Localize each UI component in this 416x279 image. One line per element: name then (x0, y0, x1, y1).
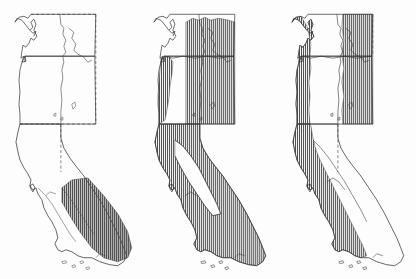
study-area-box (20, 14, 96, 172)
shaded-distribution-area (55, 172, 135, 268)
channel-islands (201, 261, 229, 270)
map-panel-3 (277, 0, 416, 279)
shaded-distribution-area-california (155, 124, 266, 266)
distribution-map-figure (0, 0, 416, 279)
map-panel-2 (139, 0, 278, 279)
channel-islands (62, 261, 90, 270)
channel-islands (339, 261, 367, 270)
shaded-distribution-area (292, 14, 373, 124)
washington-outline (15, 14, 96, 62)
shaded-distribution-area-california (293, 124, 367, 258)
interior-lakes (54, 102, 76, 120)
shaded-distribution-area (158, 17, 235, 124)
oregon-outline (19, 56, 96, 124)
interior-state-lines (60, 14, 92, 124)
map-panel-1 (0, 0, 139, 279)
